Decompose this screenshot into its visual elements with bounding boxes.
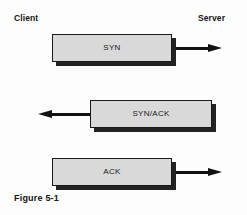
message-row-syn-ack: SYN/ACK bbox=[0, 96, 247, 136]
packet-label-syn-ack: SYN/ACK bbox=[132, 110, 169, 118]
server-endpoint-label: Server bbox=[198, 14, 225, 23]
arrow-shaft bbox=[51, 113, 92, 116]
right-arrow-icon bbox=[172, 168, 222, 177]
arrow-head bbox=[38, 110, 52, 118]
packet-box-ack: ACK bbox=[52, 158, 172, 186]
arrow-shaft bbox=[172, 47, 209, 50]
packet-label-ack: ACK bbox=[103, 168, 120, 176]
packet-label-syn: SYN bbox=[103, 44, 120, 52]
right-arrow-icon bbox=[172, 44, 222, 53]
packet-box-syn-ack: SYN/ACK bbox=[90, 100, 212, 128]
arrow-head bbox=[208, 44, 222, 52]
left-arrow-icon bbox=[38, 110, 92, 119]
packet-box-syn: SYN bbox=[52, 34, 172, 62]
arrow-shaft bbox=[172, 171, 209, 174]
message-row-syn: SYN bbox=[0, 30, 247, 70]
message-row-ack: ACK bbox=[0, 154, 247, 194]
tcp-handshake-diagram: Client Server SYN SYN/ACK ACK Figure 5-1 bbox=[0, 0, 247, 215]
figure-caption: Figure 5-1 bbox=[14, 194, 59, 203]
arrow-head bbox=[208, 168, 222, 176]
client-endpoint-label: Client bbox=[14, 14, 38, 23]
